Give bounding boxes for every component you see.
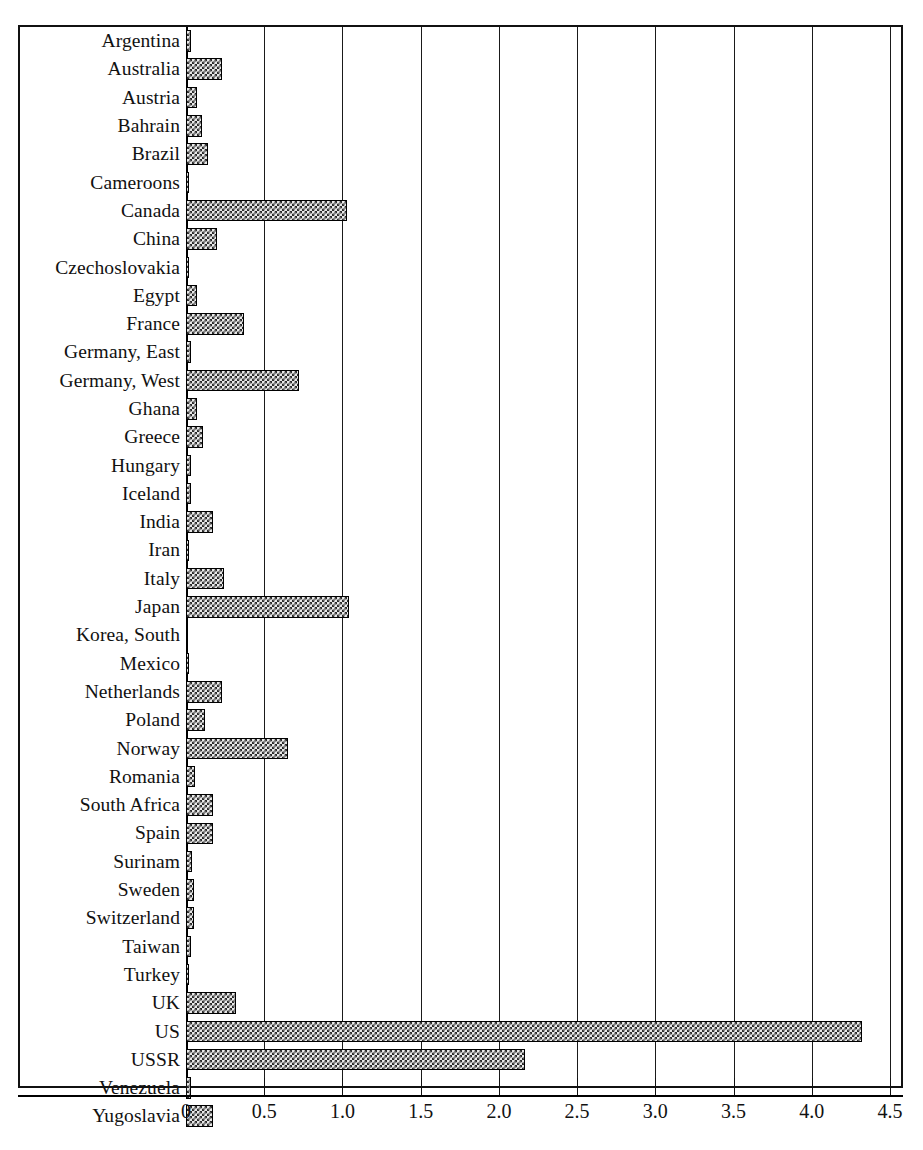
bar	[186, 1049, 525, 1071]
bar	[186, 87, 197, 109]
bar-row: Brazil	[18, 140, 901, 168]
bar-row: Italy	[18, 565, 901, 593]
bar-row: US	[18, 1017, 901, 1045]
category-label: Egypt	[133, 286, 180, 306]
x-axis-tick-label: 0	[181, 1101, 191, 1121]
bar	[186, 115, 202, 137]
category-label: Korea, South	[76, 626, 180, 646]
bar-row: Greece	[18, 423, 901, 451]
bar	[186, 455, 191, 477]
category-label: Austria	[122, 88, 180, 108]
category-label: Poland	[125, 711, 180, 731]
category-label: Turkey	[124, 965, 180, 985]
x-axis-tick	[342, 1078, 343, 1095]
category-label: France	[126, 314, 180, 334]
bar	[186, 313, 244, 335]
category-label: Yugoslavia	[92, 1107, 180, 1127]
bar	[186, 511, 213, 533]
bar-rows: ArgentinaAustraliaAustriaBahrainBrazilCa…	[18, 27, 901, 1131]
bar-row: Argentina	[18, 27, 901, 55]
bar	[186, 483, 191, 505]
category-label: Spain	[135, 824, 180, 844]
bar	[186, 568, 224, 590]
bar	[186, 1021, 862, 1043]
bar	[186, 596, 349, 618]
bar-row: Mexico	[18, 650, 901, 678]
category-label: Greece	[124, 428, 180, 448]
x-axis-tick-label: 1.0	[330, 1101, 355, 1121]
bar-row: Egypt	[18, 282, 901, 310]
category-label: USSR	[131, 1050, 180, 1070]
bar-row: France	[18, 310, 901, 338]
x-axis-tick-label: 4.5	[878, 1101, 903, 1121]
bar-row: Taiwan	[18, 933, 901, 961]
category-label: Brazil	[132, 145, 180, 165]
category-label: China	[133, 229, 180, 249]
bar	[186, 30, 191, 52]
bar	[186, 257, 189, 279]
x-axis-tick	[186, 1078, 187, 1095]
bar-row: Austria	[18, 84, 901, 112]
bar-row: Germany, West	[18, 367, 901, 395]
category-label: Hungary	[111, 456, 180, 476]
category-label: Sweden	[118, 880, 180, 900]
x-axis-tick	[655, 1078, 656, 1095]
bar	[186, 823, 213, 845]
bar-row: Netherlands	[18, 678, 901, 706]
bar	[186, 653, 189, 675]
category-label: Australia	[108, 60, 180, 80]
bar	[186, 200, 347, 222]
category-label: Germany, East	[64, 343, 180, 363]
bar-row: Iran	[18, 536, 901, 564]
bar-chart: ArgentinaAustraliaAustriaBahrainBrazilCa…	[0, 0, 923, 1150]
category-label: Iceland	[122, 484, 180, 504]
bar	[186, 172, 189, 194]
category-label: Romania	[109, 767, 180, 787]
x-axis-tick	[264, 1078, 265, 1095]
bar-row: Spain	[18, 819, 901, 847]
bar-row: Turkey	[18, 961, 901, 989]
category-label: Italy	[144, 569, 180, 589]
category-label: Netherlands	[85, 682, 180, 702]
bar-row: China	[18, 225, 901, 253]
bar	[186, 228, 217, 250]
category-label: Germany, West	[60, 371, 181, 391]
x-axis-tick-label: 1.5	[408, 1101, 433, 1121]
category-label: India	[139, 512, 180, 532]
bar	[186, 341, 191, 363]
bar-row: Sweden	[18, 876, 901, 904]
bar	[186, 766, 195, 788]
x-axis-tick-label: 3.5	[721, 1101, 746, 1121]
bar	[186, 992, 236, 1014]
category-label: Switzerland	[86, 909, 180, 929]
bar-row: UK	[18, 989, 901, 1017]
bar-row: Korea, South	[18, 621, 901, 649]
category-label: Mexico	[120, 654, 180, 674]
bar-row: Czechoslovakia	[18, 253, 901, 281]
x-axis-tick	[577, 1078, 578, 1095]
bar	[186, 964, 189, 986]
bar-row: Japan	[18, 593, 901, 621]
category-label: Cameroons	[90, 173, 180, 193]
bar-row: India	[18, 508, 901, 536]
category-label: Surinam	[113, 852, 180, 872]
bar	[186, 58, 222, 80]
bar-row: Cameroons	[18, 168, 901, 196]
bar-row: Switzerland	[18, 904, 901, 932]
category-label: Bahrain	[118, 116, 180, 136]
category-label: Norway	[117, 739, 180, 759]
bar-row: USSR	[18, 1046, 901, 1074]
x-axis-tick	[812, 1078, 813, 1095]
bar	[186, 426, 203, 448]
bar	[186, 398, 197, 420]
bar	[186, 936, 191, 958]
x-axis-tick	[499, 1078, 500, 1095]
bar	[186, 143, 208, 165]
category-label: US	[155, 1022, 180, 1042]
bar	[186, 709, 205, 731]
bar-row: Venezuela	[18, 1074, 901, 1102]
category-label: Ghana	[129, 399, 180, 419]
category-label: South Africa	[80, 795, 180, 815]
bar-row: Ghana	[18, 395, 901, 423]
bar	[186, 681, 222, 703]
